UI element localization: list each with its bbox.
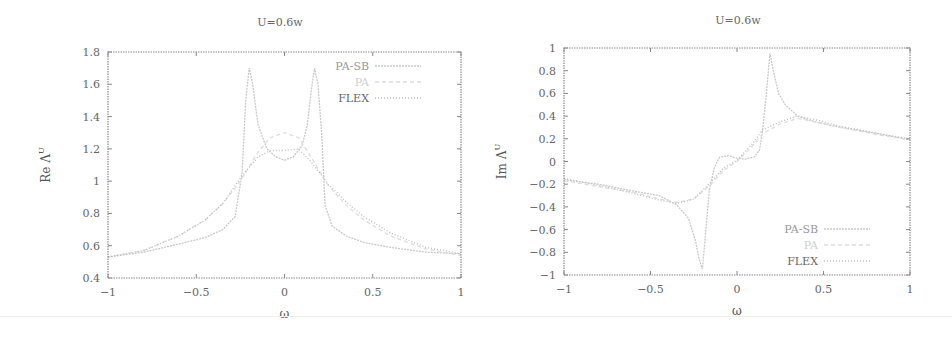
x-tick-label: 0 — [734, 283, 741, 296]
y-tick-label: 1 — [549, 42, 556, 55]
y-axis-label: Im ΛU — [493, 144, 509, 180]
x-tick-label: −1 — [100, 286, 116, 299]
y-tick-label: −0.6 — [529, 224, 556, 237]
x-tick-label: −0.5 — [637, 283, 664, 296]
y-tick-label: 0.4 — [539, 110, 557, 123]
im-lambda-plot: −1−0.8−0.6−0.4−0.200.20.40.60.81−1−0.500… — [476, 0, 952, 337]
legend-label: PA — [804, 239, 819, 252]
plot-frame — [108, 52, 461, 278]
y-tick-label: 0.6 — [539, 87, 557, 100]
x-tick-label: 1 — [458, 286, 465, 299]
legend-item-flex: FLEX — [787, 255, 870, 268]
legend-label: FLEX — [338, 92, 369, 105]
x-tick-label: −1 — [556, 283, 572, 296]
x-tick-label: 0.5 — [364, 286, 382, 299]
y-tick-label: −0.4 — [529, 201, 556, 214]
legend-label: PA — [355, 76, 370, 89]
series-line-pa-sb — [108, 68, 461, 257]
series-line-pa — [564, 118, 910, 202]
y-tick-label: 1.2 — [83, 143, 101, 156]
legend-item-pa-sb: PA-SB — [784, 223, 870, 236]
y-tick-label: −0.8 — [529, 246, 556, 259]
y-tick-label: 1.8 — [83, 46, 101, 59]
legend-item-pa: PA — [804, 239, 870, 252]
legend-item-pa-sb: PA-SB — [335, 60, 421, 73]
y-tick-label: 1 — [93, 175, 100, 188]
y-tick-label: 0.8 — [83, 207, 101, 220]
y-tick-label: 1.4 — [83, 111, 101, 124]
series-line-flex — [108, 149, 461, 257]
series-line-pa — [108, 133, 461, 257]
x-tick-label: −0.5 — [183, 286, 210, 299]
re-lambda-chart-panel: U=0.6w 0.40.60.811.21.41.61.8−1−0.500.51… — [0, 0, 476, 337]
x-axis-label: ω — [280, 307, 290, 321]
y-axis-label: Re ΛU — [37, 147, 53, 183]
series-line-flex — [564, 116, 910, 203]
x-tick-label: 1 — [907, 283, 914, 296]
y-tick-label: −1 — [540, 269, 556, 282]
legend-label: FLEX — [787, 255, 818, 268]
y-tick-label: 1.6 — [83, 78, 101, 91]
x-tick-label: 0.5 — [815, 283, 833, 296]
y-tick-label: 0.4 — [83, 272, 101, 285]
y-tick-label: 0.2 — [539, 133, 557, 146]
y-tick-label: 0.8 — [539, 65, 557, 78]
page-divider — [0, 316, 952, 317]
y-tick-label: −0.2 — [529, 178, 556, 191]
legend-label: PA-SB — [784, 223, 818, 236]
legend-item-flex: FLEX — [338, 92, 421, 105]
re-lambda-plot: 0.40.60.811.21.41.61.8−1−0.500.51ωRe ΛUP… — [0, 0, 476, 337]
y-tick-label: 0.6 — [83, 240, 101, 253]
x-tick-label: 0 — [281, 286, 288, 299]
im-lambda-chart-panel: U=0.6w −1−0.8−0.6−0.4−0.200.20.40.60.81−… — [476, 0, 952, 337]
legend-item-pa: PA — [355, 76, 421, 89]
y-tick-label: 0 — [549, 156, 556, 169]
legend-label: PA-SB — [335, 60, 369, 73]
